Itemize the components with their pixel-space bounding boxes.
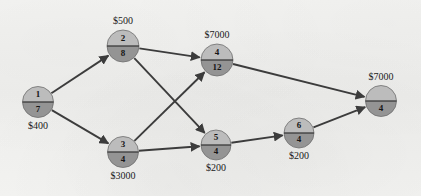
node-top-value: 3 (121, 139, 126, 149)
graph-canvas: 17$40028$50034$3000412$700054$20064$2004… (0, 0, 421, 196)
node-3[interactable]: 34$3000 (108, 137, 139, 181)
node-1[interactable]: 17$400 (23, 87, 54, 131)
node-bottom-value: 7 (36, 104, 41, 114)
network-diagram: 17$40028$50034$3000412$700054$20064$2004… (0, 0, 421, 196)
node-cost-label: $7000 (369, 71, 394, 82)
edge-n5-to-n6 (231, 135, 282, 142)
edge-n1-to-n2 (51, 56, 108, 94)
node-bottom-value: 12 (213, 62, 223, 72)
edge-n4-to-n7 (233, 64, 365, 97)
edge-n1-to-n3 (52, 110, 109, 143)
node-cost-label: $3000 (111, 170, 136, 181)
edge-n3-to-n4 (134, 72, 204, 141)
edge-n2-to-n4 (139, 48, 199, 57)
node-top-value: 4 (215, 47, 220, 57)
node-cost-label: $200 (289, 150, 309, 161)
node-top-value: 2 (121, 33, 126, 43)
node-bottom-value: 4 (297, 134, 302, 144)
node-5[interactable]: 54$200 (201, 130, 231, 173)
node-top-half (366, 86, 397, 102)
node-6[interactable]: 64$200 (284, 118, 314, 161)
node-cost-label: $7000 (205, 29, 230, 40)
node-top-value: 5 (214, 132, 219, 142)
edge-n6-to-n7 (313, 107, 365, 127)
node-cost-label: $500 (113, 15, 133, 26)
nodes-layer: 17$40028$50034$3000412$700054$20064$2004… (23, 15, 397, 181)
node-bottom-value: 4 (379, 103, 384, 113)
edge-n3-to-n5 (139, 146, 200, 151)
node-top-value: 1 (36, 89, 41, 99)
node-cost-label: $200 (206, 162, 226, 173)
node-top-value: 6 (297, 120, 302, 130)
node-bottom-value: 8 (121, 48, 126, 58)
node-cost-label: $400 (28, 120, 48, 131)
edge-n2-to-n5 (134, 58, 204, 133)
node-4[interactable]: 412$7000 (201, 29, 233, 76)
node-bottom-value: 4 (121, 154, 126, 164)
node-n7[interactable]: 4$7000 (366, 71, 397, 117)
node-bottom-value: 4 (214, 146, 219, 156)
node-2[interactable]: 28$500 (107, 15, 139, 62)
